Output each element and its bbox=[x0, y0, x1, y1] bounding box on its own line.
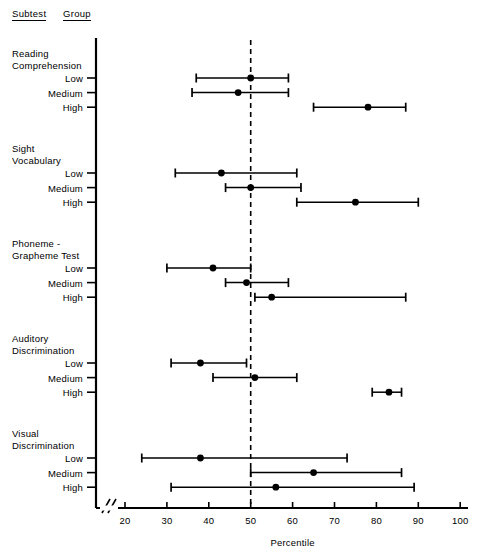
group-label-medium: Medium bbox=[0, 277, 83, 288]
point-marker bbox=[247, 184, 254, 191]
group-label-high: High bbox=[0, 102, 83, 113]
x-tick-label: 30 bbox=[161, 515, 172, 526]
point-marker bbox=[365, 104, 372, 111]
point-marker bbox=[310, 469, 317, 476]
x-tick-label: 20 bbox=[120, 515, 131, 526]
group-label-low: Low bbox=[0, 263, 83, 274]
x-axis-title: Percentile bbox=[270, 537, 314, 548]
group-label-medium: Medium bbox=[0, 87, 83, 98]
point-marker bbox=[268, 294, 275, 301]
column-header-group-text: Group bbox=[63, 8, 91, 21]
point-marker bbox=[197, 360, 204, 367]
column-header-group: Group bbox=[63, 8, 91, 19]
point-marker bbox=[197, 455, 204, 462]
group-label-low: Low bbox=[0, 453, 83, 464]
group-label-high: High bbox=[0, 197, 83, 208]
subtest-label: Reading Comprehension bbox=[12, 48, 82, 71]
subtest-label: Phoneme - Grapheme Test bbox=[12, 238, 79, 261]
group-label-medium: Medium bbox=[0, 467, 83, 478]
axis-break-mask bbox=[100, 506, 118, 511]
group-label-high: High bbox=[0, 387, 83, 398]
point-marker bbox=[218, 170, 225, 177]
group-label-low: Low bbox=[0, 73, 83, 84]
column-header-subtest-text: Subtest bbox=[12, 8, 46, 21]
x-tick-label: 90 bbox=[413, 515, 424, 526]
subtest-label: Auditory Discrimination bbox=[12, 333, 74, 356]
group-label-high: High bbox=[0, 482, 83, 493]
point-marker bbox=[386, 389, 393, 396]
point-marker bbox=[243, 279, 250, 286]
group-label-low: Low bbox=[0, 358, 83, 369]
point-marker bbox=[210, 265, 217, 272]
x-tick-label: 80 bbox=[371, 515, 382, 526]
x-tick-label: 100 bbox=[452, 515, 468, 526]
group-label-low: Low bbox=[0, 168, 83, 179]
forest-plot: 2030405060708090100PercentileSubtestGrou… bbox=[0, 0, 481, 555]
point-marker bbox=[235, 89, 242, 96]
subtest-label: Sight Vocabulary bbox=[12, 143, 61, 166]
x-tick-label: 70 bbox=[329, 515, 340, 526]
subtest-label: Visual Discrimination bbox=[12, 428, 74, 451]
point-marker bbox=[251, 374, 258, 381]
x-tick-label: 60 bbox=[287, 515, 298, 526]
point-marker bbox=[247, 75, 254, 82]
x-tick-label: 40 bbox=[203, 515, 214, 526]
column-header-subtest: Subtest bbox=[12, 8, 46, 19]
point-marker bbox=[272, 484, 279, 491]
group-label-high: High bbox=[0, 292, 83, 303]
point-marker bbox=[352, 199, 359, 206]
group-label-medium: Medium bbox=[0, 182, 83, 193]
x-tick-label: 50 bbox=[245, 515, 256, 526]
group-label-medium: Medium bbox=[0, 372, 83, 383]
